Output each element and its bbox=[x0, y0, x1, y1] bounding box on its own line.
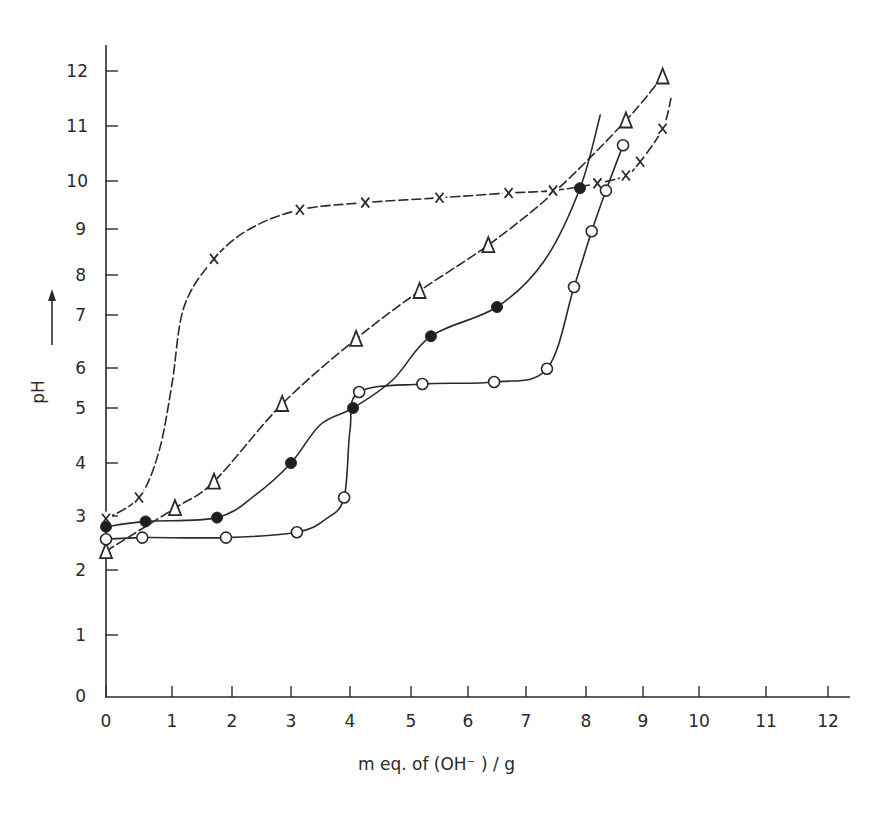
y-tick-label: 4 bbox=[75, 453, 86, 473]
y-tick-label: 9 bbox=[75, 219, 86, 239]
cross-marker-icon bbox=[620, 169, 632, 183]
x-tick-label: 5 bbox=[406, 711, 417, 731]
x-tick-label: 9 bbox=[638, 711, 649, 731]
filled-circle-marker-icon bbox=[212, 512, 223, 523]
triangle-marker-icon bbox=[169, 500, 181, 515]
cross-marker-icon bbox=[657, 122, 669, 136]
open-circle-marker-icon bbox=[339, 492, 350, 503]
y-tick-label: 1 bbox=[75, 625, 86, 645]
open-circle-marker-icon bbox=[417, 379, 428, 390]
cross-marker-icon bbox=[294, 203, 306, 217]
y-tick-label: 2 bbox=[75, 560, 86, 580]
curve-cross bbox=[106, 99, 671, 519]
open-circle-marker-icon bbox=[354, 387, 365, 398]
triangle-marker-icon bbox=[482, 237, 494, 252]
y-tick-label: 11 bbox=[66, 116, 88, 136]
y-tick-label: 6 bbox=[75, 358, 86, 378]
x-tick-label: 0 bbox=[101, 711, 112, 731]
x-tick-label: 8 bbox=[581, 711, 592, 731]
cross-marker-icon bbox=[359, 196, 371, 210]
cross-marker-icon bbox=[503, 186, 515, 200]
x-tick-label: 4 bbox=[345, 711, 356, 731]
y-tick-label: 7 bbox=[75, 305, 86, 325]
triangle-marker-icon bbox=[657, 69, 669, 84]
open-circle-marker-icon bbox=[542, 363, 553, 374]
y-tick-label: 8 bbox=[75, 265, 86, 285]
y-tick-label: 0 bbox=[75, 686, 86, 706]
open-circle-marker-icon bbox=[221, 532, 232, 543]
x-axis-title: m eq. of (OH⁻ ) / g bbox=[358, 754, 515, 774]
cross-marker-icon bbox=[208, 252, 220, 266]
cross-marker-icon bbox=[133, 490, 145, 504]
y-tick-label: 12 bbox=[66, 61, 88, 81]
open-circle-marker-icon bbox=[569, 282, 580, 293]
cross-marker-icon bbox=[547, 184, 559, 198]
filled-circle-marker-icon bbox=[425, 331, 436, 342]
y-axis-title-group: pH bbox=[28, 380, 48, 404]
y-tick-label: 3 bbox=[75, 506, 86, 526]
axes: 01234567891011120123456789101112 bbox=[66, 45, 850, 731]
filled-circle-marker-icon bbox=[492, 302, 503, 313]
open-circle-marker-icon bbox=[618, 140, 629, 151]
curves bbox=[106, 77, 671, 552]
triangle-marker-icon bbox=[208, 474, 220, 489]
triangle-marker-icon bbox=[620, 113, 632, 128]
y-tick-label: 5 bbox=[75, 398, 86, 418]
triangle-marker-icon bbox=[350, 331, 362, 346]
y-axis-title: pH bbox=[28, 380, 48, 404]
up-arrow-icon bbox=[48, 289, 56, 345]
titration-chart: 01234567891011120123456789101112 m eq. o… bbox=[0, 0, 883, 813]
open-circle-marker-icon bbox=[586, 226, 597, 237]
filled-circle-marker-icon bbox=[286, 458, 297, 469]
x-tick-label: 3 bbox=[286, 711, 297, 731]
filled-circle-marker-icon bbox=[575, 183, 586, 194]
x-tick-label: 1 bbox=[167, 711, 178, 731]
filled-circle-marker-icon bbox=[348, 403, 359, 414]
open-circle-marker-icon bbox=[101, 534, 112, 545]
x-tick-label: 7 bbox=[521, 711, 532, 731]
filled-circle-marker-icon bbox=[101, 521, 112, 532]
y-tick-label: 10 bbox=[66, 171, 88, 191]
x-tick-label: 11 bbox=[755, 711, 777, 731]
x-tick-label: 10 bbox=[688, 711, 710, 731]
curve-triangle bbox=[106, 77, 663, 552]
open-circle-marker-icon bbox=[489, 377, 500, 388]
x-tick-label: 6 bbox=[463, 711, 474, 731]
markers bbox=[100, 69, 669, 559]
triangle-marker-icon bbox=[276, 396, 288, 411]
filled-circle-marker-icon bbox=[140, 516, 151, 527]
open-circle-marker-icon bbox=[137, 532, 148, 543]
open-circle-marker-icon bbox=[291, 527, 302, 538]
x-tick-label: 12 bbox=[817, 711, 839, 731]
cross-marker-icon bbox=[434, 191, 446, 205]
triangle-marker-icon bbox=[414, 283, 426, 298]
cross-marker-icon bbox=[634, 155, 646, 169]
open-circle-marker-icon bbox=[600, 185, 611, 196]
x-tick-label: 2 bbox=[227, 711, 238, 731]
